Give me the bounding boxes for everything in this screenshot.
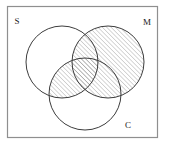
venn-diagram-figure: S M C [0, 0, 170, 149]
set-label-m: M [143, 17, 151, 27]
venn-diagram-canvas: S M C [0, 0, 170, 149]
set-label-s: S [14, 16, 19, 26]
set-label-c: C [125, 120, 131, 130]
